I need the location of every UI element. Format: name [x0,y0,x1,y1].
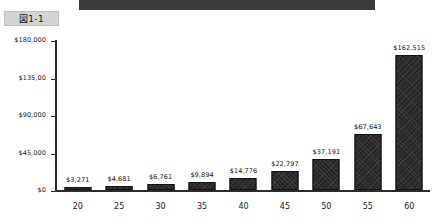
x-axis-tick-label: 60 [404,202,414,211]
x-axis-tick-label: 50 [321,202,331,211]
x-axis-tick-slot: 45 [264,40,305,216]
y-axis-tick-label: $180,000 [14,36,46,44]
x-axis-tick-slot: 60 [389,40,430,216]
y-axis-tick: $90,000 [51,116,56,117]
x-axis-tick-slot: 35 [181,40,222,216]
x-axis-tick-slot: 30 [140,40,181,216]
x-axis-tick-label: 35 [197,202,207,211]
x-axis-tick-slot: 40 [223,40,264,216]
y-axis-tick: $180,000 [51,41,56,42]
y-axis-tick-label: $0 [38,186,46,194]
y-axis-tick-label: $135,00 [18,74,46,82]
y-axis-tick-label: $45,000 [18,149,46,157]
chart-container: $0$45,000$90,000$135,00$180,000 $3,271$4… [0,32,437,221]
y-axis-tick: $135,00 [51,79,56,80]
x-axis-tick-label: 45 [280,202,290,211]
x-axis-tick-label: 20 [73,202,83,211]
x-axis-tick-label: 55 [363,202,373,211]
x-axis-tick-slot: 50 [306,40,347,216]
y-axis-tick: $0 [51,191,56,192]
top-banner-bar [79,0,375,10]
x-axis-tick-slot: 55 [347,40,388,216]
x-axis-tick-label: 30 [156,202,166,211]
x-axis-tick-label: 40 [238,202,248,211]
x-axis-tick-slot: 20 [57,40,98,216]
x-axis-tick-label: 25 [114,202,124,211]
chart-page: 図1-1 $0$45,000$90,000$135,00$180,000 $3,… [0,0,437,221]
x-axis-tick-slot: 25 [98,40,139,216]
figure-number-badge: 図1-1 [4,11,59,26]
y-axis-tick: $45,000 [51,154,56,155]
plot-area: $0$45,000$90,000$135,00$180,000 $3,271$4… [55,40,430,192]
y-axis-tick-label: $90,000 [18,111,46,119]
